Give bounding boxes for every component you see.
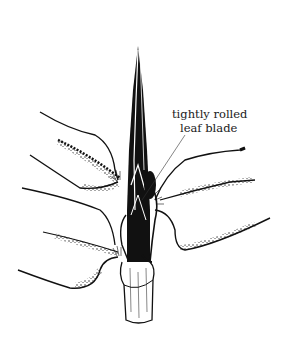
left-leaves <box>18 112 121 288</box>
annotation-leader-line <box>142 135 185 200</box>
rolled-leaf-blade <box>127 46 150 265</box>
annotation-label-line2: leaf blade <box>180 121 237 135</box>
annotation-label-line1: tightly rolled <box>172 107 247 121</box>
grass-shoot-illustration <box>0 0 286 339</box>
stem-base <box>120 255 154 323</box>
right-leaves <box>153 148 270 250</box>
